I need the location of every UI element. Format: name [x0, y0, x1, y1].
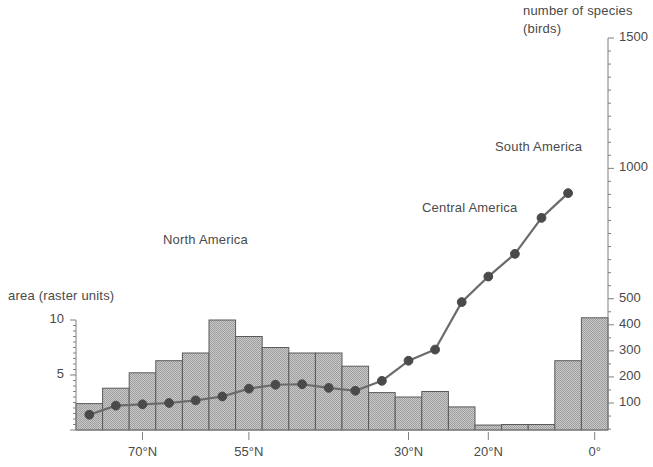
x-tick-label: 20°N: [458, 444, 518, 459]
bar: [448, 407, 475, 430]
data-point-marker: [165, 399, 174, 408]
left-tick-label: 5: [34, 366, 64, 381]
right-tick-label: 100: [619, 394, 641, 409]
bar: [581, 318, 608, 430]
left-tick-label: 10: [34, 311, 64, 326]
data-point-marker: [431, 345, 440, 354]
right-tick-label: 500: [619, 290, 641, 305]
data-point-marker: [378, 376, 387, 385]
data-point-marker: [564, 189, 573, 198]
bar: [555, 361, 582, 430]
bar: [289, 353, 316, 430]
data-point-marker: [457, 298, 466, 307]
right-tick-label: 1000: [619, 159, 648, 174]
data-point-marker: [191, 396, 200, 405]
bar: [342, 366, 369, 430]
data-point-marker: [112, 401, 121, 410]
x-tick-label: 30°N: [379, 444, 439, 459]
bar: [422, 392, 449, 431]
data-point-marker: [484, 272, 493, 281]
chart-canvas: number of species (birds) area (raster u…: [0, 0, 653, 467]
data-point-marker: [351, 386, 360, 395]
data-point-marker: [404, 356, 413, 365]
bar: [236, 337, 263, 431]
x-tick-label: 0°: [565, 444, 625, 459]
bar: [528, 425, 555, 431]
bar: [182, 353, 209, 430]
bar: [475, 425, 502, 430]
x-tick-label: 55°N: [219, 444, 279, 459]
bar: [156, 361, 183, 430]
data-point-marker: [138, 400, 147, 409]
bar: [369, 393, 396, 430]
x-tick-label: 70°N: [113, 444, 173, 459]
data-point-marker: [324, 383, 333, 392]
data-point-marker: [85, 410, 94, 419]
bar: [395, 397, 422, 430]
data-point-marker: [218, 392, 227, 401]
bars-group: [76, 318, 608, 430]
bar: [209, 320, 236, 430]
plot-area: [0, 0, 653, 467]
right-tick-label: 400: [619, 316, 641, 331]
right-tick-label: 1500: [619, 29, 648, 44]
data-point-marker: [511, 249, 520, 258]
bar: [502, 425, 529, 431]
right-tick-label: 200: [619, 368, 641, 383]
data-point-marker: [271, 380, 280, 389]
data-point-marker: [245, 384, 254, 393]
data-point-marker: [298, 380, 307, 389]
right-tick-label: 300: [619, 342, 641, 357]
data-point-marker: [537, 213, 546, 222]
